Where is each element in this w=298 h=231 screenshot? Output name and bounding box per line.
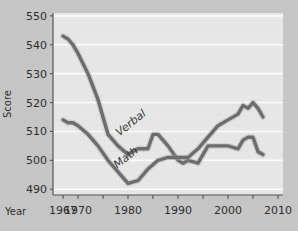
x-tick-label: 1990 bbox=[164, 204, 192, 217]
sat-score-trend-chart: 490500510520530540550 196719701980199020… bbox=[0, 0, 298, 231]
x-axis-title: Year bbox=[4, 206, 27, 217]
x-tick-label: 1980 bbox=[114, 204, 142, 217]
x-tick-label: 2010 bbox=[264, 204, 292, 217]
y-tick-label: 490 bbox=[26, 183, 47, 196]
y-tick-label: 540 bbox=[26, 39, 47, 52]
y-tick-label: 550 bbox=[26, 10, 47, 23]
chart-canvas: 490500510520530540550 196719701980199020… bbox=[0, 0, 298, 231]
y-tick-label: 530 bbox=[26, 68, 47, 81]
x-axis-ticks: 196719701980199020002010 bbox=[49, 195, 292, 217]
y-tick-label: 510 bbox=[26, 125, 47, 138]
x-tick-label: 2000 bbox=[214, 204, 242, 217]
x-tick-label: 1970 bbox=[64, 204, 92, 217]
y-tick-label: 500 bbox=[26, 154, 47, 167]
y-tick-label: 520 bbox=[26, 97, 47, 110]
y-axis-title: Score bbox=[2, 90, 13, 118]
y-axis-ticks: 490500510520530540550 bbox=[26, 10, 53, 196]
